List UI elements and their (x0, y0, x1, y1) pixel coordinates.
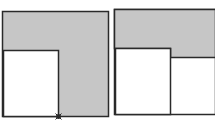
left-inner-square (4, 51, 59, 117)
left-panel (3, 12, 109, 120)
right-inner-square (116, 49, 171, 115)
right-panel (115, 10, 216, 115)
corner-marker-icon (56, 114, 62, 120)
diagram-canvas (0, 0, 215, 123)
